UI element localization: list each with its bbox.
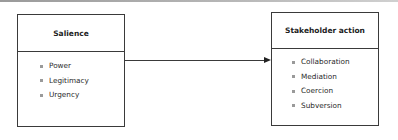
stakeholder-action-items-list: Collaboration Mediation Coercion Subvers… <box>272 49 378 113</box>
list-item-label: Coercion <box>301 84 333 99</box>
list-item-label: Legitimacy <box>49 74 89 89</box>
salience-box: Salience Power Legitimacy Urgency <box>17 14 125 127</box>
list-item: Collaboration <box>292 55 378 70</box>
square-bullet-icon <box>292 104 295 107</box>
list-item-label: Collaboration <box>301 55 350 70</box>
square-bullet-icon <box>40 79 43 82</box>
list-item: Power <box>40 59 124 74</box>
square-bullet-icon <box>40 65 43 68</box>
list-item: Mediation <box>292 70 378 85</box>
square-bullet-icon <box>40 94 43 97</box>
list-item-label: Urgency <box>49 88 79 103</box>
list-item: Subversion <box>292 99 378 114</box>
stakeholder-action-box-title: Stakeholder action <box>272 13 378 49</box>
list-item-label: Subversion <box>301 99 342 114</box>
salience-title-text: Salience <box>53 29 89 38</box>
salience-box-title: Salience <box>18 15 124 52</box>
stakeholder-action-box: Stakeholder action Collaboration Mediati… <box>271 12 379 126</box>
top-rule-divider <box>0 0 398 2</box>
square-bullet-icon <box>292 75 295 78</box>
list-item: Legitimacy <box>40 74 124 89</box>
list-item-label: Mediation <box>301 70 337 85</box>
connector-line <box>124 60 264 61</box>
list-item: Coercion <box>292 84 378 99</box>
salience-items-list: Power Legitimacy Urgency <box>18 52 124 103</box>
list-item: Urgency <box>40 88 124 103</box>
list-item-label: Power <box>49 59 71 74</box>
square-bullet-icon <box>292 61 295 64</box>
stakeholder-action-title-text: Stakeholder action <box>285 26 365 35</box>
arrowhead-icon <box>264 57 271 63</box>
square-bullet-icon <box>292 90 295 93</box>
